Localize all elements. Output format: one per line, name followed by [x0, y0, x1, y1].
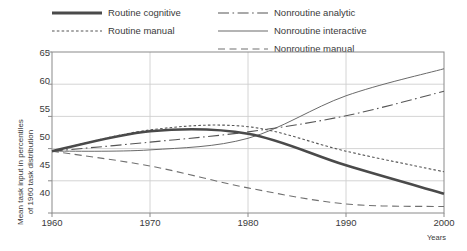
legend-column-left: Routine cognitive Routine manual: [52, 5, 181, 41]
legend-swatch-dotted-icon: [52, 26, 102, 36]
chart-plot-area: Mean task input in percentiles of 1960 t…: [0, 45, 467, 251]
chart-legend: Routine cognitive Routine manual Non: [0, 0, 467, 45]
legend-label-routine-cognitive: Routine cognitive: [108, 8, 181, 18]
legend-item-routine-manual[interactable]: Routine manual: [52, 23, 181, 38]
legend-item-nonroutine-analytic[interactable]: Nonroutine analytic: [218, 5, 366, 20]
legend-swatch-dash-dot-icon: [218, 8, 268, 18]
legend-label-routine-manual: Routine manual: [108, 26, 175, 36]
legend-swatch-solid-thin-icon: [218, 26, 268, 36]
legend-item-routine-cognitive[interactable]: Routine cognitive: [52, 5, 181, 20]
legend-label-nonroutine-analytic: Nonroutine analytic: [274, 8, 355, 18]
legend-label-nonroutine-interactive: Nonroutine interactive: [274, 26, 366, 36]
legend-item-nonroutine-interactive[interactable]: Nonroutine interactive: [218, 23, 366, 38]
chart-canvas: [0, 45, 467, 251]
chart-figure: Routine cognitive Routine manual Non: [0, 0, 467, 251]
legend-swatch-solid-thick-icon: [52, 8, 102, 18]
